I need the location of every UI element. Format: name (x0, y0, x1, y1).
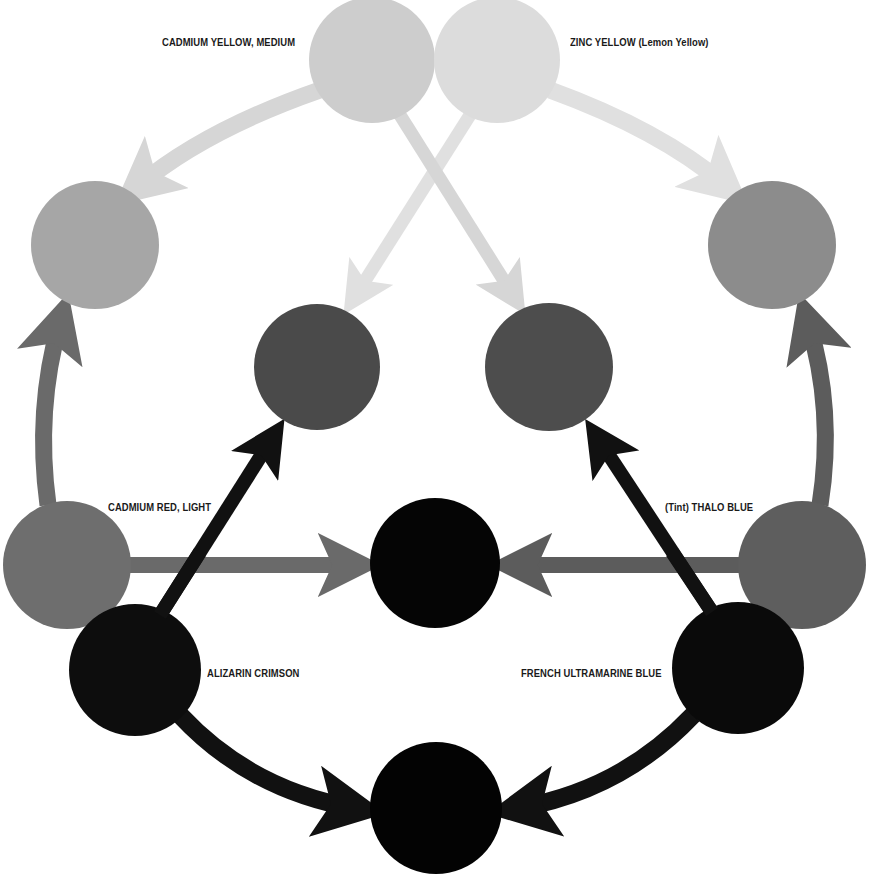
circle-zinc-yellow (434, 0, 560, 123)
label-alizarin-crimson: ALIZARIN CRIMSON (207, 667, 299, 679)
arrow-cadmium-yellow-to-orange (138, 90, 320, 186)
circle-cadmium-yellow-medium (309, 0, 435, 123)
circle-mix-violet-left (254, 304, 380, 430)
label-french-ultramarine-blue: FRENCH ULTRAMARINE BLUE (521, 667, 662, 679)
arrow-thalo-blue-to-green-light (808, 322, 825, 505)
circle-french-ultramarine-blue (672, 602, 804, 734)
arrow-ultramarine-to-bottom (519, 715, 693, 808)
arrow-alizarin-to-bottom (180, 715, 354, 808)
label-zinc-yellow: ZINC YELLOW (Lemon Yellow) (570, 36, 709, 48)
circle-mix-orange (31, 181, 159, 309)
circle-mix-green-light (708, 181, 836, 309)
circle-alizarin-crimson (69, 604, 201, 736)
arrow-cadmium-red-to-orange (44, 322, 60, 505)
circle-mix-bottom-dark (370, 742, 502, 874)
arrow-zinc-yellow-to-green-light (550, 90, 725, 185)
circle-mix-center-dark (370, 498, 500, 628)
color-mixing-diagram (0, 0, 879, 878)
circle-mix-green-right (485, 303, 613, 431)
label-thalo-blue: (Tint) THALO BLUE (665, 501, 753, 513)
label-cadmium-yellow-medium: CADMIUM YELLOW, MEDIUM (162, 36, 295, 48)
label-cadmium-red-light: CADMIUM RED, LIGHT (108, 501, 211, 513)
